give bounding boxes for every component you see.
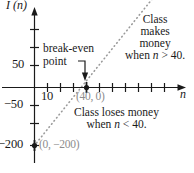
annotation-above-line4-pre: when — [125, 49, 153, 61]
annotation-below-line2-pre: when — [86, 118, 114, 130]
x-tick-label-10: 10 — [41, 90, 53, 103]
break-even-callout-line2: point — [43, 55, 94, 68]
annotation-below-line2: when n < 40. — [74, 119, 159, 131]
y-axis-label: I (n) — [6, 0, 27, 11]
x-axis-label: n — [180, 88, 186, 100]
break-even-callout-line1: break-even — [43, 42, 94, 55]
annotation-below-line2-post: < 40. — [120, 118, 147, 130]
point-marker-y-intercept — [32, 140, 37, 151]
y-tick-label-50: 50 — [12, 58, 24, 71]
y-tick-label-neg200: −200 — [0, 138, 23, 151]
annotation-above-line: Class makes money when n > 40. — [125, 14, 185, 62]
coord-label-break-even: (40, 0) — [76, 91, 105, 103]
break-even-callout: break-even point — [43, 42, 94, 67]
annotation-below-line: Class loses money when n < 40. — [74, 107, 159, 131]
y-tick-label-neg50: −50 — [4, 98, 23, 111]
annotation-above-line4-post: > 40. — [159, 49, 186, 61]
annotation-above-line4: when n > 40. — [125, 50, 185, 62]
y-axis — [31, 7, 37, 163]
coord-label-y-intercept: (0, −200) — [39, 139, 79, 151]
income-break-even-graph: I (n) n 50 −50 −200 10 (40, 0) (0, −200)… — [0, 0, 194, 173]
